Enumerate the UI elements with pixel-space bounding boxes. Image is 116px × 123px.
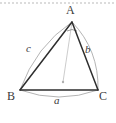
- cevian-endpoint-marker: [62, 81, 64, 83]
- edge-AB: [20, 22, 72, 90]
- vertex-label-C: C: [99, 90, 107, 102]
- vertex-label-A: A: [66, 4, 75, 16]
- side-label-b: b: [85, 44, 91, 55]
- side-label-c: c: [26, 43, 31, 54]
- edge-AC: [72, 22, 98, 90]
- vertex-label-B: B: [7, 90, 15, 102]
- geometry-figure: A B C a b c: [0, 0, 116, 123]
- side-label-a: a: [54, 95, 60, 106]
